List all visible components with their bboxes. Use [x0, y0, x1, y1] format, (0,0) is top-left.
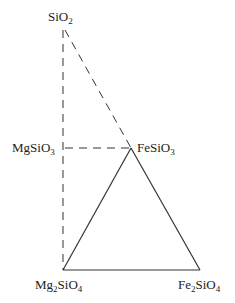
label-mgsio3: MgSiO3 [12, 141, 55, 155]
label-mgsio3-text: MgSiO [12, 140, 50, 155]
label-fe2sio4: Fe2SiO4 [178, 278, 220, 292]
label-sio2-sub: 2 [68, 16, 73, 26]
label-fesio3-sub: 3 [170, 147, 175, 157]
label-fesio3-text: FeSiO [137, 140, 170, 155]
label-mg2sio4-b: SiO [58, 277, 78, 292]
label-sio2: SiO2 [48, 10, 73, 24]
label-fesio3: FeSiO3 [137, 141, 175, 155]
solid-line-fesio3-fe2sio4 [131, 148, 200, 270]
label-fe2sio4-sub-b: 4 [216, 284, 221, 294]
label-mg2sio4-a: Mg [35, 277, 53, 292]
label-fe2sio4-a: Fe [178, 277, 191, 292]
label-mgsio3-sub: 3 [50, 147, 55, 157]
label-fe2sio4-b: SiO [196, 277, 216, 292]
dashed-line-sio2-fesio3 [65, 30, 131, 148]
label-sio2-text: SiO [48, 9, 68, 24]
solid-line-fesio3-mg2sio4 [63, 148, 131, 270]
label-mg2sio4: Mg2SiO4 [35, 278, 82, 292]
label-mg2sio4-sub-b: 4 [78, 284, 83, 294]
